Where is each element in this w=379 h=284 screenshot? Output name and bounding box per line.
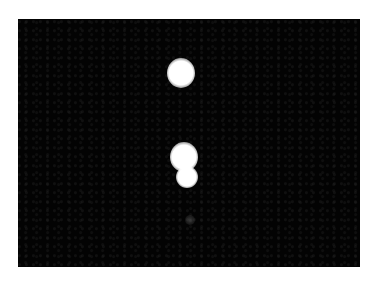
top-spot: [167, 58, 195, 88]
lower-spot: [176, 166, 198, 188]
faint-spot: [185, 215, 195, 225]
micrograph-frame: [18, 19, 360, 267]
